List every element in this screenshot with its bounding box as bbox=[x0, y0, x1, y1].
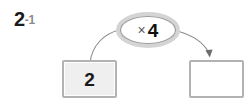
arrowhead-icon bbox=[205, 50, 212, 58]
input-value: 2 bbox=[84, 70, 95, 89]
output-answer-box[interactable] bbox=[189, 60, 244, 98]
operator-value: 4 bbox=[148, 21, 159, 40]
multiply-icon: × bbox=[138, 23, 146, 37]
operator-label: ×4 bbox=[118, 14, 178, 46]
operator-to-output-arc bbox=[177, 31, 209, 53]
input-to-operator-arc bbox=[90, 30, 119, 63]
input-value-box[interactable]: 2 bbox=[62, 60, 117, 98]
worksheet-canvas: 2-1 ×4 2 bbox=[0, 0, 250, 102]
